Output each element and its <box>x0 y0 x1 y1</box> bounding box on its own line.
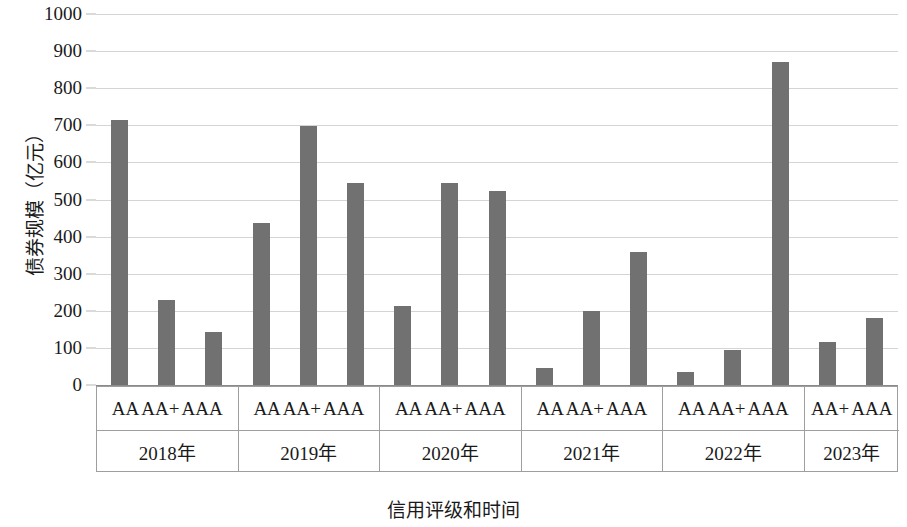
bar-2021-AAA <box>630 252 647 385</box>
bar-2018-AA <box>111 120 128 385</box>
y-tick-label-800: 800 <box>54 77 83 99</box>
y-tick-mark-600 <box>86 162 96 163</box>
y-tick-label-600: 600 <box>54 151 83 173</box>
y-tick-mark-700 <box>86 125 96 126</box>
bars-layer <box>96 14 898 385</box>
x-tick-label-2020-AAA: AAA <box>464 398 507 420</box>
x-tick-label-2020-AA+: AA+ <box>423 398 463 420</box>
bond-scale-bar-chart: 债券规模（亿元） 0100200300400500600700800900100… <box>0 0 907 527</box>
y-tick-label-100: 100 <box>54 337 83 359</box>
x-tick-label-2022-AA: AA <box>677 398 706 420</box>
x-tick-label-2023-AAA: AAA <box>850 398 893 420</box>
bar-2020-AA+ <box>441 183 458 385</box>
y-tick-mark-0 <box>86 385 96 386</box>
x-tick-label-2020-AA: AA <box>394 398 423 420</box>
x-tick-label-2019-AA+: AA+ <box>282 398 322 420</box>
x-group-ratings-2021: AAAA+AAA <box>522 387 663 431</box>
y-tick-mark-200 <box>86 310 96 311</box>
bar-2023-AAA <box>866 318 883 385</box>
bar-2020-AAA <box>489 191 506 385</box>
y-tick-label-900: 900 <box>54 40 83 62</box>
x-tick-label-2019-AA: AA <box>252 398 281 420</box>
x-axis-title: 信用评级和时间 <box>0 495 907 522</box>
x-tick-label-2022-AA+: AA+ <box>706 398 746 420</box>
x-group-2022: AAAA+AAA2022年 <box>663 387 805 471</box>
x-group-year-label: 2018年 <box>97 431 238 471</box>
y-tick-mark-100 <box>86 347 96 348</box>
bar-2021-AA+ <box>583 311 600 385</box>
bar-2022-AA+ <box>724 350 741 385</box>
y-tick-mark-1000 <box>86 14 96 15</box>
x-tick-label-2021-AAA: AAA <box>605 398 648 420</box>
x-tick-label-2023-AA+: AA+ <box>810 398 850 420</box>
bar-2019-AA <box>253 223 270 385</box>
x-tick-label-2021-AA: AA <box>535 398 564 420</box>
y-tick-label-700: 700 <box>54 114 83 136</box>
x-group-year-label: 2023年 <box>805 431 899 471</box>
bar-2022-AAA <box>772 62 789 385</box>
x-group-2021: AAAA+AAA2021年 <box>522 387 664 471</box>
bar-2020-AA <box>394 306 411 385</box>
bar-2023-AA+ <box>819 342 836 385</box>
bar-2018-AA+ <box>158 300 175 385</box>
x-group-2018: AAAA+AAA2018年 <box>97 387 239 471</box>
bar-2019-AAA <box>347 183 364 385</box>
x-group-year-label: 2019年 <box>239 431 380 471</box>
x-group-2019: AAAA+AAA2019年 <box>239 387 381 471</box>
x-group-year-label: 2021年 <box>522 431 663 471</box>
y-tick-label-200: 200 <box>54 300 83 322</box>
x-group-2020: AAAA+AAA2020年 <box>380 387 522 471</box>
y-tick-mark-300 <box>86 273 96 274</box>
x-group-ratings-2019: AAAA+AAA <box>239 387 380 431</box>
y-tick-label-400: 400 <box>54 226 83 248</box>
y-tick-label-300: 300 <box>54 263 83 285</box>
x-group-year-label: 2022年 <box>663 431 804 471</box>
y-tick-mark-500 <box>86 199 96 200</box>
bar-2018-AAA <box>205 332 222 385</box>
x-tick-label-2021-AA+: AA+ <box>565 398 605 420</box>
x-group-ratings-2018: AAAA+AAA <box>97 387 238 431</box>
y-tick-label-0: 0 <box>73 374 83 396</box>
bar-2022-AA <box>677 372 694 385</box>
x-group-year-label: 2020年 <box>380 431 521 471</box>
x-tick-label-2022-AAA: AAA <box>747 398 790 420</box>
bar-2021-AA <box>536 368 553 385</box>
x-group-2023: AA+AAA2023年 <box>805 387 899 471</box>
y-tick-label-1000: 1000 <box>44 3 82 25</box>
x-tick-label-2018-AA+: AA+ <box>140 398 180 420</box>
x-group-ratings-2023: AA+AAA <box>805 387 899 431</box>
plot-area <box>96 14 898 385</box>
x-axis-label-table: AAAA+AAA2018年AAAA+AAA2019年AAAA+AAA2020年A… <box>96 386 898 472</box>
x-group-ratings-2020: AAAA+AAA <box>380 387 521 431</box>
bar-2019-AA+ <box>300 126 317 385</box>
x-tick-label-2018-AAA: AAA <box>180 398 223 420</box>
y-axis-ticks: 01002003004005006007008009001000 <box>0 14 96 385</box>
x-tick-label-2018-AA: AA <box>111 398 140 420</box>
y-tick-mark-900 <box>86 51 96 52</box>
y-tick-mark-400 <box>86 236 96 237</box>
y-tick-mark-800 <box>86 88 96 89</box>
x-group-ratings-2022: AAAA+AAA <box>663 387 804 431</box>
x-tick-label-2019-AAA: AAA <box>322 398 365 420</box>
y-tick-label-500: 500 <box>54 189 83 211</box>
